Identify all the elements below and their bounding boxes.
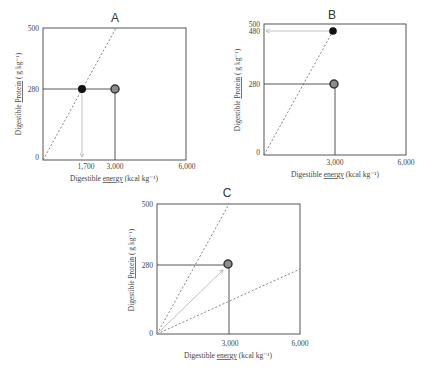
panel-a-title: A [111,11,119,25]
panel-b-ytick-0: 0 [256,148,260,157]
panel-c-xtick-3000: 3,000 [222,339,239,348]
panel-a-frame [43,28,186,160]
panel-c-ytick-0: 0 [149,329,153,338]
panel-c-steep-ratio-line [157,204,229,334]
diagram-canvas: A 500 280 0 1,700 3,000 6,000 Digestible… [0,0,426,370]
panel-a-xlabel: Digestible energy (kcal kg⁻¹) [70,174,158,183]
panel-a-ytick-500: 500 [28,24,40,33]
panel-a-ylabel: Digestible Protein ( g kg⁻¹) [14,52,23,135]
panel-b-ylabel: Digestible Protein ( g kg⁻¹) [233,48,242,131]
panel-a: A 500 280 0 1,700 3,000 6,000 Digestible… [14,11,196,183]
panel-b-ratio-line [264,31,333,155]
panel-b-xtick-6000: 6,000 [398,158,415,167]
panel-b: B 500 480 280 0 3,000 6,000 Digestible e… [233,8,415,179]
panel-b-title: B [328,8,336,22]
panel-c-ytick-500: 500 [142,200,154,209]
panel-a-xtick-3000: 3,000 [107,162,124,171]
panel-a-grey-point [111,85,119,93]
panel-b-xlabel: Digestible energy (kcal kg⁻¹) [291,170,379,179]
panel-a-xtick-1700: 1,700 [78,162,95,171]
panel-c-shallow-ratio-line [157,269,300,334]
panel-b-black-point [329,27,337,35]
panel-c-grey-point [224,260,232,268]
panel-b-grey-point [330,80,338,88]
panel-c-title: C [223,186,232,200]
panel-b-xtick-3000: 3,000 [327,158,344,167]
panel-a-ytick-280: 280 [28,85,40,94]
panel-a-black-point [78,85,86,93]
panel-a-ytick-0: 0 [35,153,39,162]
panel-c-ytick-280: 280 [142,261,154,270]
panel-a-ratio-line [43,28,116,160]
panel-b-ytick-480: 480 [249,27,261,36]
panel-a-xtick-6000: 6,000 [179,162,196,171]
panel-c-ylabel: Digestible Protein ( g kg⁻¹) [127,228,136,311]
panel-c-xtick-6000: 6,000 [292,339,309,348]
panel-c: C 500 280 0 3,000 6,000 Digestible energ… [127,186,309,360]
panel-b-ytick-280: 280 [249,80,261,89]
panel-c-xlabel: Digestible energy (kcal kg⁻¹) [184,351,272,360]
panel-c-target-arrow [157,270,223,334]
panel-c-frame [157,204,300,334]
